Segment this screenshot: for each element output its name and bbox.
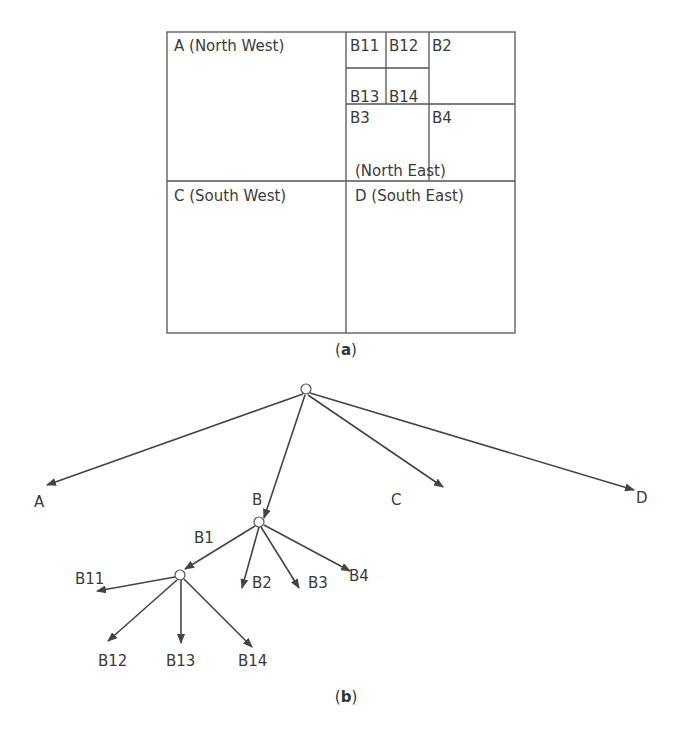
edge-b1-b12 [108,580,177,641]
cell-label-b12: B12 [389,37,418,55]
quadtree-edges [47,393,634,647]
cell-label-b11: B11 [350,37,379,55]
spatial-decomposition-grid [167,32,515,333]
node-b1-circle [175,570,185,580]
quadrant-label-sw: C (South West) [174,187,286,205]
caption-b: (b) [335,688,357,706]
node-label-d: D [636,489,648,507]
node-label-b2: B2 [252,574,272,592]
cell-label-b4: B4 [432,109,452,127]
node-label-b: B [252,491,262,509]
quadtree-figure: A (North West) B11 B12 B2 B13 B14 B3 B4 … [0,0,676,736]
node-label-a: A [34,493,45,511]
outer-box [167,32,515,333]
edge-root-b [264,395,305,518]
cell-label-b2: B2 [432,37,452,55]
edge-b-b4 [264,525,350,571]
node-label-b13: B13 [166,652,195,670]
node-label-b1: B1 [194,529,214,547]
edge-root-a [47,394,303,485]
caption-a: (a) [335,341,357,359]
node-label-b11: B11 [75,570,104,588]
node-label-b12: B12 [98,652,127,670]
node-label-b3: B3 [308,574,328,592]
edge-b1-b14 [184,579,252,647]
node-b-circle [254,517,264,527]
edge-root-c [308,395,443,487]
cell-label-b3: B3 [350,109,370,127]
quadrant-label-ne: (North East) [355,162,446,180]
cell-label-b14: B14 [389,88,418,106]
root-node-circle [301,384,311,394]
quadrant-label-se: D (South East) [355,187,464,205]
node-label-c: C [391,491,401,509]
node-label-b14: B14 [238,652,267,670]
quadrant-label-nw: A (North West) [174,37,284,55]
node-label-b4: B4 [349,567,369,585]
edge-root-d [310,393,634,490]
cell-label-b13: B13 [350,88,379,106]
edge-b1-b11 [97,577,175,591]
